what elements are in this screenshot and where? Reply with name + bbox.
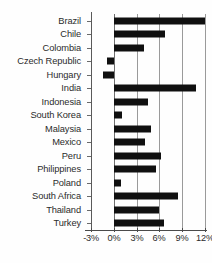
category-tick-mark: [87, 142, 91, 143]
bar: [114, 206, 159, 213]
bar: [114, 112, 122, 119]
bar: [114, 44, 144, 51]
bottom-axis-line: [85, 230, 207, 231]
bar-row: [91, 55, 205, 69]
category-label: South Korea: [0, 109, 86, 123]
bar-row: [91, 149, 205, 163]
category-tick-mark: [87, 75, 91, 76]
bar-row: [91, 136, 205, 150]
category-tick-mark: [87, 102, 91, 103]
category-label: Peru: [0, 149, 86, 163]
bar-row: [91, 82, 205, 96]
value-tick-label: 3%: [131, 232, 144, 244]
category-label: Poland: [0, 176, 86, 190]
category-label: Thailand: [0, 203, 86, 217]
bar: [107, 58, 114, 65]
bar-row: [91, 14, 205, 28]
value-tick-label: 6%: [153, 232, 166, 244]
value-axis-labels: -3%0%3%6%9%12%: [91, 232, 205, 248]
category-tick-mark: [87, 169, 91, 170]
bar-row: [91, 41, 205, 55]
bar-row: [91, 176, 205, 190]
category-label: Turkey: [0, 217, 86, 231]
bar-row: [91, 163, 205, 177]
bar: [114, 152, 161, 159]
bar: [114, 85, 196, 92]
value-tick-label: 0%: [108, 232, 121, 244]
category-tick-mark: [87, 129, 91, 130]
category-tick-mark: [87, 196, 91, 197]
bar-chart: BrazilChileColombiaCzech RepublicHungary…: [0, 0, 212, 263]
bar-row: [91, 203, 205, 217]
category-tick-mark: [87, 88, 91, 89]
category-label: Hungary: [0, 68, 86, 82]
gridline: [205, 14, 206, 230]
category-tick-mark: [87, 210, 91, 211]
bar: [114, 220, 164, 227]
bar: [103, 71, 114, 78]
category-label: Brazil: [0, 14, 86, 28]
category-label: Malaysia: [0, 122, 86, 136]
bar-row: [91, 28, 205, 42]
category-label: South Africa: [0, 190, 86, 204]
category-label: Czech Republic: [0, 55, 86, 69]
value-tick-label: -3%: [83, 232, 99, 244]
bar: [114, 139, 145, 146]
bar: [114, 31, 165, 38]
category-label: Philippines: [0, 163, 86, 177]
bar-row: [91, 217, 205, 231]
value-tick-label: 9%: [176, 232, 189, 244]
plot-area: [91, 14, 205, 230]
category-tick-mark: [87, 61, 91, 62]
bar: [114, 166, 156, 173]
bar: [114, 193, 178, 200]
bar: [114, 125, 151, 132]
category-label: Mexico: [0, 136, 86, 150]
category-axis-labels: BrazilChileColombiaCzech RepublicHungary…: [0, 14, 86, 230]
category-label: Chile: [0, 28, 86, 42]
bar-row: [91, 68, 205, 82]
category-tick-mark: [87, 183, 91, 184]
category-label: Indonesia: [0, 95, 86, 109]
bar: [114, 17, 205, 24]
bar-row: [91, 95, 205, 109]
bar-row: [91, 109, 205, 123]
bar-series: [91, 14, 205, 230]
bar: [114, 179, 121, 186]
category-tick-mark: [87, 156, 91, 157]
category-label: India: [0, 82, 86, 96]
category-tick-mark: [87, 115, 91, 116]
category-tick-mark: [87, 223, 91, 224]
category-tick-mark: [87, 48, 91, 49]
bar: [114, 98, 148, 105]
value-tick-label: 12%: [196, 232, 212, 244]
category-tick-mark: [87, 21, 91, 22]
bar-row: [91, 190, 205, 204]
bar-row: [91, 122, 205, 136]
category-label: Colombia: [0, 41, 86, 55]
category-tick-mark: [87, 34, 91, 35]
